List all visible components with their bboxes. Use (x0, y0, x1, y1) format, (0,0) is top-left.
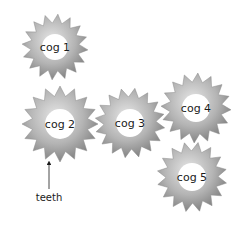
cog-label: cog 2 (45, 118, 75, 131)
gear-diagram: cog 1cog 2cog 3cog 4cog 5 teeth (0, 0, 243, 230)
teeth-label: teeth (36, 192, 62, 203)
cog-4: cog 4 (161, 73, 231, 143)
cog-label: cog 3 (115, 117, 145, 130)
cog-layer: cog 1cog 2cog 3cog 4cog 5 (22, 14, 231, 211)
cog-5: cog 5 (158, 143, 227, 212)
cog-label: cog 1 (40, 41, 70, 54)
cog-1: cog 1 (22, 14, 88, 80)
cog-label: cog 4 (181, 102, 211, 115)
cog-label: cog 5 (177, 171, 207, 184)
cog-3: cog 3 (95, 88, 164, 157)
teeth-annotation: teeth (36, 163, 62, 203)
cog-2: cog 2 (22, 86, 98, 162)
